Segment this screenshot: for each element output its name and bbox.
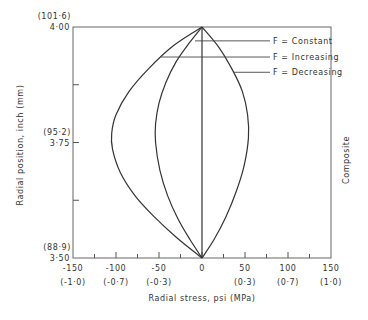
axis-ticks	[73, 85, 310, 258]
series-f-increasing-outer	[111, 27, 202, 258]
x-tick-label: 0	[199, 264, 205, 273]
series-f-increasing	[155, 27, 202, 258]
y-tick-sublabel-mm: (95·2)	[43, 128, 71, 137]
x-tick-sublabel-mpa: (-0·3)	[146, 278, 171, 287]
x-tick-label: 150	[322, 264, 339, 273]
x-tick-label: 50	[239, 264, 250, 273]
y-tick-labels: 4·00(101·6)3·75(95·2)3·50(88·9)	[38, 12, 71, 263]
right-label-composite: Composite	[342, 136, 351, 184]
x-tick-sublabel-mpa: (-0·7)	[103, 278, 128, 287]
y-tick-sublabel-mm: (88·9)	[43, 243, 71, 252]
y-tick-label: 3·75	[50, 139, 70, 148]
x-tick-label: -50	[152, 264, 167, 273]
annotation-label: F = Increasing	[273, 53, 339, 62]
x-tick-sublabel-mpa: (0·3)	[234, 278, 256, 287]
x-tick-sublabel-mpa: (-1·0)	[60, 278, 85, 287]
x-tick-label: -150	[63, 264, 84, 273]
y-tick-label: 4·00	[50, 23, 70, 32]
y-tick-label: 3·50	[50, 254, 70, 263]
chart: -150(-1·0)-100(-0·7)-50(-0·3)050(0·3)100…	[0, 0, 368, 320]
x-tick-labels: -150(-1·0)-100(-0·7)-50(-0·3)050(0·3)100…	[60, 264, 342, 287]
y-axis-title: Radial position, inch (mm)	[16, 85, 25, 206]
x-tick-label: 100	[279, 264, 296, 273]
y-tick-sublabel-mm: (101·6)	[38, 12, 71, 21]
series-curves	[111, 27, 248, 258]
x-tick-sublabel-mpa: (1·0)	[320, 278, 342, 287]
annotation-label: F = Decreasing	[273, 68, 343, 77]
annotation-label: F = Constant	[273, 37, 333, 46]
series-f-decreasing	[202, 27, 249, 258]
x-tick-sublabel-mpa: (0·7)	[277, 278, 299, 287]
x-tick-label: -100	[106, 264, 127, 273]
x-axis-title: Radial stress, psi (MPa)	[149, 294, 256, 303]
annotations: F = ConstantF = IncreasingF = Decreasing	[161, 37, 343, 77]
